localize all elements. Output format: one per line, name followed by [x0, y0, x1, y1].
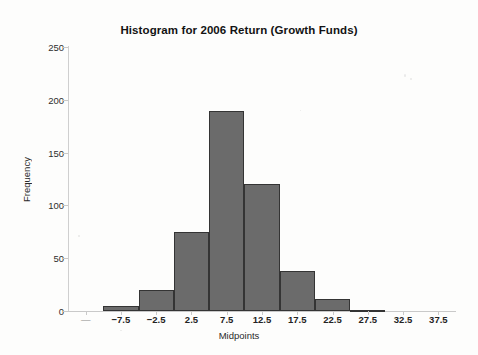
x-axis-tick-mark [86, 311, 87, 315]
x-axis-tick-label: 32.5 [394, 314, 413, 325]
x-axis-tick-mark [438, 311, 439, 315]
bars-layer [0, 0, 478, 355]
x-axis-tick-label: −2.5 [147, 314, 166, 325]
x-axis-tick-mark [191, 311, 192, 315]
x-axis-tick-label: 7.5 [220, 314, 233, 325]
x-axis-tick-label: 27.5 [359, 314, 378, 325]
histogram-bar [139, 290, 174, 311]
x-axis-tick-mark [262, 311, 263, 315]
x-axis-tick-mark [121, 311, 122, 315]
x-axis-tick-mark [368, 311, 369, 315]
histogram-bar [315, 299, 350, 311]
histogram-bar [209, 111, 244, 311]
x-axis-title: Midpoints [0, 330, 478, 341]
x-axis-tick-mark [403, 311, 404, 315]
x-axis-tick-label: 22.5 [323, 314, 342, 325]
x-axis-tick-label: 17.5 [288, 314, 307, 325]
x-axis-tick-mark [297, 311, 298, 315]
scan-speck [78, 235, 80, 237]
scan-speck [300, 110, 301, 111]
scan-speck [410, 78, 412, 80]
histogram-figure: Histogram for 2006 Return (Growth Funds)… [0, 0, 478, 355]
x-axis-tick-mark [227, 311, 228, 315]
histogram-bar [174, 232, 209, 311]
scan-speck [404, 74, 406, 77]
x-axis-tick-label: 37.5 [429, 314, 448, 325]
x-axis-tick-mark [333, 311, 334, 315]
x-axis-tick-label: −7.5 [112, 314, 131, 325]
x-axis-tick-mark [156, 311, 157, 315]
x-axis-tick-label: 12.5 [253, 314, 272, 325]
x-axis-tick-label: 2.5 [185, 314, 198, 325]
histogram-bar [244, 184, 279, 311]
x-axis-tick-label: — [81, 314, 91, 325]
scan-speck [120, 330, 122, 331]
histogram-bar [280, 271, 315, 311]
